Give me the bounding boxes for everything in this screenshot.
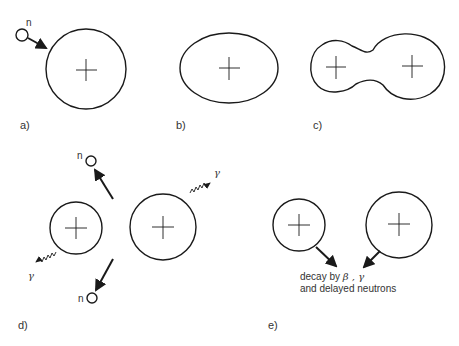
neutron-icon bbox=[86, 156, 96, 166]
panel-a: n a) bbox=[16, 17, 126, 131]
neutron-label-top: n bbox=[77, 150, 83, 161]
neutron-label-bottom: n bbox=[78, 293, 84, 304]
neutron-icon bbox=[87, 293, 97, 303]
nucleus-cross-right bbox=[402, 55, 423, 78]
nucleus-cross-left bbox=[326, 56, 346, 79]
decay-caption-line1: decay by β , γ bbox=[300, 271, 364, 282]
nucleus-cross bbox=[288, 214, 310, 236]
decay-arrow-left bbox=[316, 247, 336, 266]
nucleus-cross bbox=[76, 59, 97, 81]
panel-label-d: d) bbox=[18, 319, 28, 331]
panel-label-c: c) bbox=[313, 119, 322, 131]
neutron-arrow-bottom bbox=[96, 259, 113, 290]
nucleus-cross bbox=[219, 57, 240, 80]
panel-label-e: e) bbox=[268, 319, 278, 331]
panel-label-a: a) bbox=[20, 119, 30, 131]
gamma-ray-icon bbox=[36, 252, 56, 262]
panel-b: b) bbox=[176, 33, 278, 131]
fission-diagram: n a) b) c) bbox=[0, 0, 459, 346]
neutron-arrow bbox=[28, 38, 46, 48]
gamma-label-top: γ bbox=[214, 167, 220, 178]
gamma-ray-icon bbox=[190, 183, 210, 193]
panel-c: c) bbox=[311, 34, 445, 131]
gamma-label-bottom: γ bbox=[28, 270, 34, 281]
neutron-label: n bbox=[26, 17, 32, 28]
panel-d: n n γ γ d) bbox=[18, 150, 220, 331]
neutron-arrow-top bbox=[95, 170, 113, 199]
nucleus-cross bbox=[388, 213, 410, 236]
neutron-icon bbox=[16, 29, 28, 41]
nucleus-cross bbox=[65, 217, 87, 239]
panel-e: decay by β , γ and delayed neutrons e) bbox=[268, 192, 432, 331]
decay-arrow-right bbox=[364, 251, 380, 267]
panel-label-b: b) bbox=[176, 119, 186, 131]
nucleus-cross bbox=[152, 216, 174, 239]
decay-caption-line2: and delayed neutrons bbox=[300, 283, 396, 294]
